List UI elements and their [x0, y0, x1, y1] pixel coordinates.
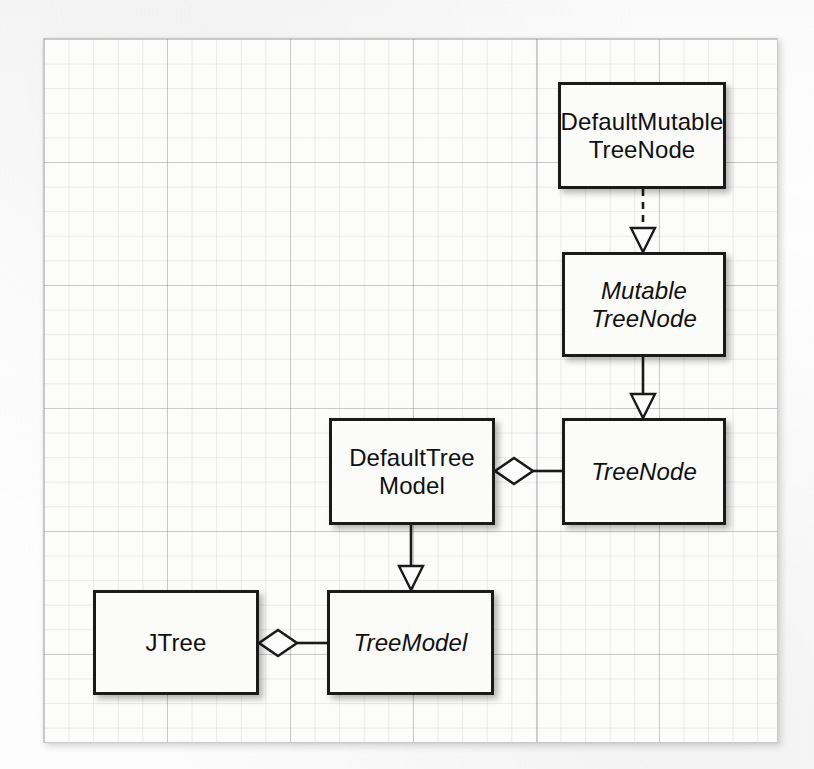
- class-box-treenode[interactable]: TreeNode: [562, 418, 726, 525]
- class-box-mutabletreenode[interactable]: Mutable TreeNode: [562, 252, 726, 357]
- class-box-defaultmutabletreenode[interactable]: DefaultMutable TreeNode: [558, 82, 726, 189]
- class-box-defaulttreemodel[interactable]: DefaultTree Model: [329, 418, 495, 525]
- class-box-label: JTree: [140, 629, 213, 657]
- class-box-label: TreeNode: [585, 458, 703, 486]
- class-box-jtree[interactable]: JTree: [93, 590, 259, 695]
- class-box-label: Mutable TreeNode: [585, 277, 703, 333]
- class-box-treemodel[interactable]: TreeModel: [327, 590, 494, 695]
- diagram-page: MutableTreeNode (dashed + hollow triangl…: [0, 0, 814, 769]
- class-box-label: DefaultTree Model: [343, 444, 481, 500]
- class-box-label: TreeModel: [348, 629, 474, 657]
- class-box-label: DefaultMutable TreeNode: [555, 108, 730, 164]
